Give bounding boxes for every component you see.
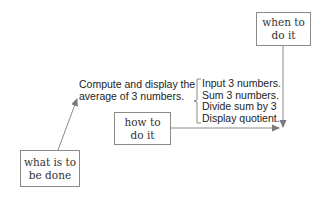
when-to-do-it-label: when to do it [262, 16, 305, 42]
how-to-do-it-box: how to do it [114, 112, 171, 145]
step-item: Display quotient. [202, 113, 281, 125]
what-is-to-be-done-label: what is to be done [24, 156, 76, 182]
goal-text: Compute and display the average of 3 num… [79, 79, 195, 102]
steps-list: Input 3 numbers. Sum 3 numbers. Divide s… [202, 78, 281, 124]
goal-line-2: average of 3 numbers. [79, 91, 195, 103]
goal-line-1: Compute and display the [79, 79, 195, 91]
step-item: Input 3 numbers. [202, 78, 281, 90]
diagram-canvas: when to do it how to do it what is to be… [0, 0, 328, 201]
when-to-do-it-box: when to do it [256, 12, 311, 46]
how-to-do-it-label: how to do it [125, 116, 161, 142]
what-is-to-be-done-box: what is to be done [20, 150, 80, 187]
arrow-what-to-goal [58, 99, 77, 150]
step-item: Divide sum by 3 [202, 101, 281, 113]
